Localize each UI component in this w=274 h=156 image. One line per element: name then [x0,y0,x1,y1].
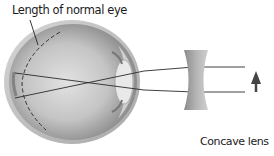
eye-length-label: Length of normal eye [12,3,127,17]
eye-diagram [0,0,274,156]
concave-lens-label: Concave lens [200,135,269,148]
concave-lens [184,50,208,110]
object-arrow [251,71,261,92]
eyeball [4,20,140,144]
